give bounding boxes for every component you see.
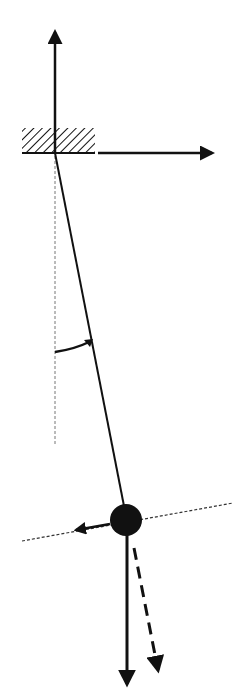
component-force-arrow	[134, 548, 158, 670]
tangential-force-arrow	[76, 524, 110, 530]
pendulum-bob	[110, 504, 142, 536]
support-block	[22, 128, 95, 153]
angle-arc	[55, 342, 89, 352]
pendulum-string	[55, 153, 124, 506]
pendulum-diagram	[0, 0, 233, 700]
